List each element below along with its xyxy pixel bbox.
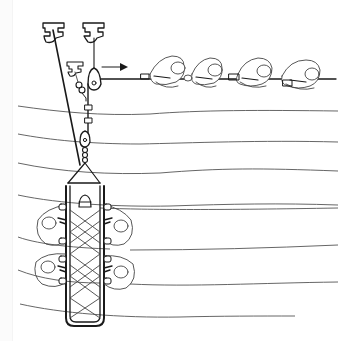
main-rope (53, 30, 80, 165)
rope-grab-icon (75, 72, 86, 101)
haul-direction-arrow-icon (102, 63, 128, 71)
attendant-top-left-icon (37, 204, 66, 245)
attendant-top-right-icon (104, 204, 132, 245)
diagram-canvas: Rope rescue haul system with stretcher (0, 0, 356, 341)
attendant-bottom-left-icon (35, 254, 66, 287)
hauler-2-icon (184, 58, 222, 87)
hauler-3-icon (229, 58, 272, 87)
hauler-4-icon (282, 60, 320, 89)
lower-pulley-icon (80, 131, 90, 163)
attendant-bottom-right-icon (104, 256, 134, 290)
stretcher-icon (66, 186, 104, 326)
anchor-small-icon (67, 62, 83, 76)
pulley-icon (88, 68, 101, 90)
rescue-illustration (0, 0, 356, 341)
hauler-1-icon (141, 56, 185, 87)
